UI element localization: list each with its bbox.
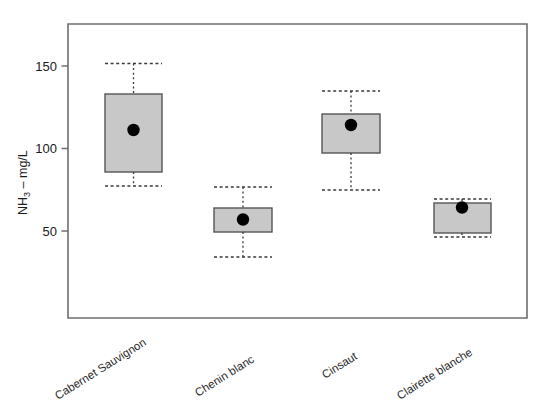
mean-marker-2[interactable]: [237, 213, 249, 225]
y-axis-title-rest: – mg/L: [16, 150, 30, 192]
x-axis-category-labels: Cabernet Sauvignon Chenin blanc Cinsaut …: [53, 336, 475, 402]
x-label-chenin-blanc: Chenin blanc: [193, 353, 257, 399]
box-group-cabernet-sauvignon[interactable]: [105, 64, 162, 187]
box-group-chenin-blanc[interactable]: [214, 187, 272, 257]
x-label-cabernet-sauvignon: Cabernet Sauvignon: [53, 336, 148, 402]
box-group-cinsaut[interactable]: [322, 91, 380, 190]
y-axis-title-main: NH: [16, 197, 30, 215]
y-tick-label-150: 150: [35, 59, 57, 74]
boxplot-figure: 150 100 50 NH3 – mg/L: [0, 0, 552, 411]
y-axis-ticks: [62, 66, 69, 231]
y-axis-tick-labels: 150 100 50: [35, 59, 57, 239]
mean-marker-1[interactable]: [127, 124, 139, 136]
x-label-clairette-blanche: Clairette blanche: [395, 346, 475, 402]
mean-marker-3[interactable]: [345, 119, 357, 131]
svg-text:NH3 – mg/L: NH3 – mg/L: [16, 150, 32, 215]
box-group-clairette-blanche[interactable]: [434, 199, 491, 237]
y-tick-label-100: 100: [35, 141, 57, 156]
y-axis-title: NH3 – mg/L: [16, 150, 32, 215]
y-tick-label-50: 50: [43, 224, 57, 239]
x-label-cinsaut: Cinsaut: [320, 349, 360, 380]
mean-marker-4[interactable]: [456, 201, 468, 213]
chart-canvas: 150 100 50 NH3 – mg/L: [0, 0, 552, 411]
